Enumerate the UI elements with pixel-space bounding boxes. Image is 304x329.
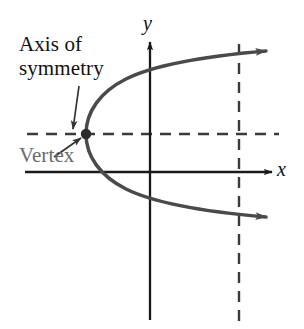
axis-of-symmetry-label: Axis of symmetry xyxy=(19,33,104,80)
dashed-lines-group xyxy=(27,44,279,321)
coordinate-axes-group xyxy=(25,42,272,320)
y-axis-label: y xyxy=(143,12,152,34)
vertex-label: Vertex xyxy=(19,144,74,168)
axis-of-symmetry-pointer-arrow xyxy=(73,86,79,129)
parabola-figure: Axis of symmetry Vertex x y xyxy=(0,0,304,329)
vertex-dot-marker xyxy=(81,129,91,139)
x-axis-label: x xyxy=(277,158,286,180)
